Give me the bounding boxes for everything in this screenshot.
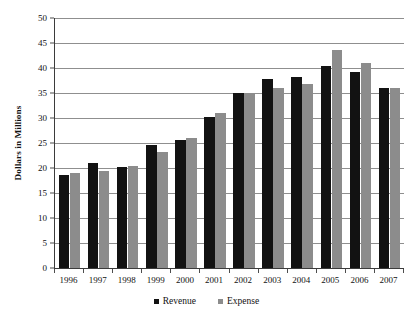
bar-expense-1996 <box>70 173 81 268</box>
bar-revenue-2007 <box>379 88 390 268</box>
x-tick-mark <box>258 269 259 273</box>
legend-label: Expense <box>227 296 259 306</box>
y-tick-label: 30 <box>38 114 47 123</box>
y-tick-label: 10 <box>38 214 47 223</box>
bar-group <box>230 18 259 268</box>
bar-group <box>113 18 142 268</box>
x-tick-label-2001: 2001 <box>205 275 223 285</box>
x-tick-label-2002: 2002 <box>234 275 252 285</box>
bar-expense-1998 <box>128 166 139 269</box>
x-tick-mark <box>287 269 288 273</box>
y-axis-ticks: 05101520253035404550 <box>22 18 50 268</box>
bar-expense-2003 <box>273 88 284 268</box>
bar-expense-2000 <box>186 138 197 269</box>
bar-revenue-2002 <box>233 93 244 268</box>
y-tick-label: 15 <box>38 189 47 198</box>
bar-expense-2006 <box>361 63 372 268</box>
y-tick-label: 0 <box>43 264 48 273</box>
x-axis-ticks: 1996199719981999200020012002200320042005… <box>54 269 404 293</box>
legend-swatch-icon <box>218 299 223 304</box>
x-tick-mark <box>83 269 84 273</box>
bar-group <box>288 18 317 268</box>
x-tick-mark <box>316 269 317 273</box>
x-tick-mark <box>112 269 113 273</box>
bar-expense-1997 <box>99 171 110 269</box>
bar-revenue-2005 <box>321 66 332 269</box>
y-tick-label: 25 <box>38 139 47 148</box>
bar-chart: Dollars in Millions 05101520253035404550… <box>0 0 413 320</box>
y-tick-label: 40 <box>38 64 47 73</box>
x-tick-label-1996: 1996 <box>60 275 78 285</box>
bars-layer <box>55 18 404 268</box>
y-tick-label: 45 <box>38 39 47 48</box>
x-tick-mark <box>54 269 55 273</box>
x-tick-label-1997: 1997 <box>89 275 107 285</box>
bar-revenue-2001 <box>204 117 215 268</box>
bar-expense-2004 <box>302 84 313 269</box>
x-tick-mark <box>141 269 142 273</box>
bar-expense-2002 <box>244 93 255 268</box>
bar-revenue-1996 <box>59 175 70 269</box>
x-tick-mark <box>170 269 171 273</box>
bar-group <box>375 18 404 268</box>
bar-expense-2007 <box>390 88 401 268</box>
x-tick-label-2004: 2004 <box>292 275 310 285</box>
y-tick-label: 35 <box>38 89 47 98</box>
bar-group <box>346 18 375 268</box>
bar-group <box>142 18 171 268</box>
y-tick-label: 50 <box>38 14 47 23</box>
bar-expense-1999 <box>157 152 168 268</box>
bar-revenue-2006 <box>350 72 361 269</box>
x-tick-mark <box>403 269 404 273</box>
plot-area <box>54 18 404 269</box>
bar-expense-2001 <box>215 113 226 268</box>
x-tick-label-2007: 2007 <box>379 275 397 285</box>
bar-revenue-1998 <box>117 167 128 269</box>
bar-group <box>317 18 346 268</box>
bar-revenue-2004 <box>291 77 302 269</box>
chart-legend: RevenueExpense <box>0 296 413 306</box>
legend-item-expense: Expense <box>218 296 259 306</box>
x-tick-mark <box>199 269 200 273</box>
bar-revenue-1997 <box>88 163 99 268</box>
x-tick-label-1998: 1998 <box>118 275 136 285</box>
bar-revenue-2000 <box>175 140 186 268</box>
bar-group <box>84 18 113 268</box>
bar-expense-2005 <box>332 50 343 268</box>
legend-label: Revenue <box>163 296 196 306</box>
x-tick-label-2005: 2005 <box>321 275 339 285</box>
legend-swatch-icon <box>154 299 159 304</box>
x-tick-mark <box>374 269 375 273</box>
x-tick-mark <box>229 269 230 273</box>
y-tick-label: 20 <box>38 164 47 173</box>
bar-revenue-1999 <box>146 145 157 269</box>
bar-group <box>55 18 84 268</box>
bar-revenue-2003 <box>262 79 273 268</box>
legend-item-revenue: Revenue <box>154 296 196 306</box>
y-tick-label: 5 <box>43 239 48 248</box>
bar-group <box>200 18 229 268</box>
bar-group <box>259 18 288 268</box>
x-tick-label-2000: 2000 <box>176 275 194 285</box>
x-tick-mark <box>345 269 346 273</box>
x-tick-label-2006: 2006 <box>350 275 368 285</box>
x-tick-label-2003: 2003 <box>263 275 281 285</box>
bar-group <box>171 18 200 268</box>
x-tick-label-1999: 1999 <box>147 275 165 285</box>
